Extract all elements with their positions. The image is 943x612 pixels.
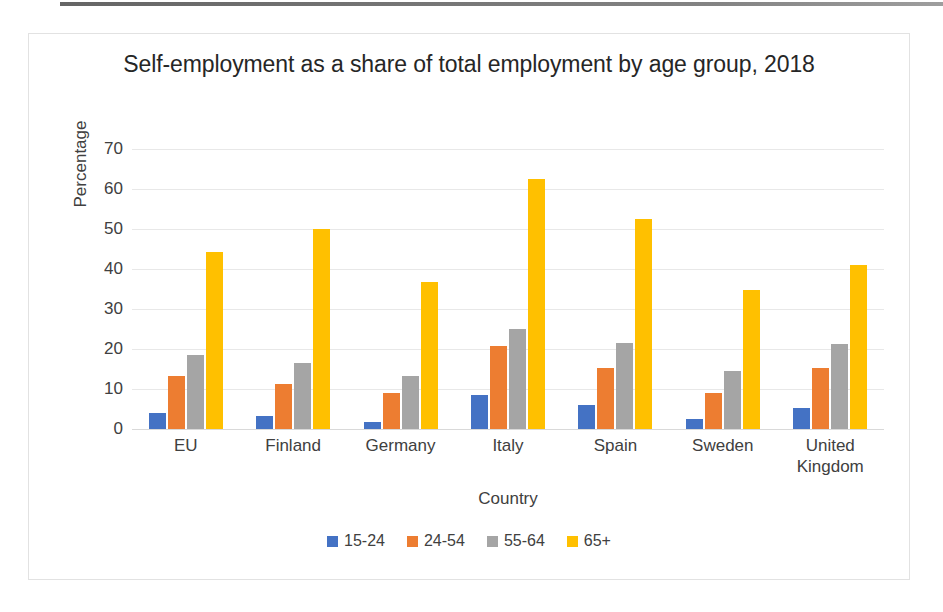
y-axis-tick-label: 60 [104, 179, 123, 199]
bar-groups [132, 149, 884, 429]
x-axis-tick-label: Finland [239, 435, 346, 477]
bar [578, 405, 595, 429]
y-axis-tick-label: 50 [104, 219, 123, 239]
bar [528, 179, 545, 429]
bar-group [777, 149, 884, 429]
y-axis-tick-label: 30 [104, 299, 123, 319]
legend-label: 55-64 [504, 532, 545, 550]
bar [597, 368, 614, 429]
chart-legend: 15-2424-5455-6465+ [29, 532, 909, 550]
bar [490, 346, 507, 429]
bar [793, 408, 810, 429]
legend-swatch-icon [567, 536, 578, 547]
y-axis-tick-label: 70 [104, 139, 123, 159]
x-axis-tick-label: Sweden [669, 435, 776, 477]
bar [275, 384, 292, 429]
plot-area: 706050403020100 [132, 149, 884, 429]
bar [313, 229, 330, 429]
bar [421, 282, 438, 429]
scan-artifact-line [60, 2, 943, 6]
bar [616, 343, 633, 429]
legend-label: 15-24 [344, 532, 385, 550]
bar [168, 376, 185, 429]
bar-group [562, 149, 669, 429]
legend-swatch-icon [487, 536, 498, 547]
bar-group [239, 149, 346, 429]
bar [812, 368, 829, 429]
x-axis-tick-label: United Kingdom [777, 435, 884, 477]
bar [724, 371, 741, 429]
bar [206, 252, 223, 429]
bar-group [669, 149, 776, 429]
bar [686, 419, 703, 429]
bar-group [347, 149, 454, 429]
legend-swatch-icon [407, 536, 418, 547]
legend-swatch-icon [327, 536, 338, 547]
x-axis-title: Country [132, 489, 884, 509]
legend-item[interactable]: 15-24 [327, 532, 385, 550]
legend-label: 24-54 [424, 532, 465, 550]
x-axis-tick-label: EU [132, 435, 239, 477]
bar [149, 413, 166, 429]
bar [402, 376, 419, 429]
bar [705, 393, 722, 429]
chart-container: Self-employment as a share of total empl… [28, 33, 910, 580]
legend-item[interactable]: 55-64 [487, 532, 545, 550]
legend-label: 65+ [584, 532, 611, 550]
bar [383, 393, 400, 429]
x-axis-tick-label: Italy [454, 435, 561, 477]
bar [471, 395, 488, 429]
y-axis-tick-label: 0 [114, 419, 123, 439]
y-axis-title: Percentage [71, 74, 91, 254]
x-axis-tick-labels: EUFinlandGermanyItalySpainSwedenUnited K… [132, 435, 884, 477]
gridline: 0 [132, 429, 884, 430]
bar [294, 363, 311, 429]
y-axis-tick-label: 10 [104, 379, 123, 399]
chart-title: Self-employment as a share of total empl… [99, 48, 839, 81]
bar [256, 416, 273, 429]
bar-group [132, 149, 239, 429]
bar-group [454, 149, 561, 429]
bar [831, 344, 848, 429]
x-axis-tick-label: Germany [347, 435, 454, 477]
y-axis-tick-label: 40 [104, 259, 123, 279]
legend-item[interactable]: 24-54 [407, 532, 465, 550]
bar [635, 219, 652, 429]
x-axis-tick-label: Spain [562, 435, 669, 477]
bar [509, 329, 526, 429]
legend-item[interactable]: 65+ [567, 532, 611, 550]
bar [187, 355, 204, 429]
y-axis-tick-label: 20 [104, 339, 123, 359]
bar [364, 422, 381, 429]
bar [743, 290, 760, 429]
bar [850, 265, 867, 429]
